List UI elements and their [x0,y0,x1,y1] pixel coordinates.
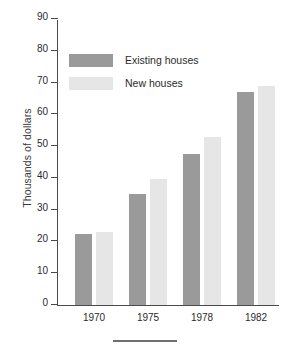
y-axis-tick-label: 90 [37,11,48,22]
y-axis-title: Thousands of dollars [21,78,33,238]
y-axis-tick: 90 [51,18,58,19]
legend-swatch-existing-houses [69,54,113,67]
x-axis-label: 1970 [64,312,124,323]
y-axis-tick: 60 [51,113,58,114]
bar-existing-houses[interactable] [75,234,92,306]
y-axis-tick-label: 70 [37,75,48,86]
y-axis-tick-label: 60 [37,106,48,117]
footer-rule [113,340,177,342]
y-axis-tick: 10 [51,272,58,273]
bar-chart-figure: Thousands of dollars 9080706050403020100… [0,0,289,354]
legend-item[interactable]: New houses [69,74,199,92]
y-axis-tick: 40 [51,177,58,178]
y-axis-tick-label: 40 [37,170,48,181]
bar-existing-houses[interactable] [183,154,200,305]
bar-new-houses[interactable] [150,179,167,305]
y-axis-tick-label: 30 [37,202,48,213]
y-axis-tick: 20 [51,240,58,241]
chart-legend: Existing housesNew houses [69,51,199,97]
legend-item[interactable]: Existing houses [69,51,199,69]
legend-label: Existing houses [125,54,199,66]
y-axis-tick-label: 10 [37,265,48,276]
y-axis-tick: 50 [51,145,58,146]
y-axis-tick: 30 [51,209,58,210]
y-axis-tick: 0 [51,304,58,305]
bar-new-houses[interactable] [96,232,113,305]
y-axis-tick-label: 0 [42,297,48,308]
x-axis-label: 1982 [226,312,286,323]
bar-existing-houses[interactable] [237,92,254,305]
legend-label: New houses [125,77,183,89]
bar-existing-houses[interactable] [129,194,146,305]
bar-new-houses[interactable] [258,86,275,305]
x-axis-label: 1978 [172,312,232,323]
legend-swatch-new-houses [69,77,113,90]
y-axis-tick-label: 50 [37,138,48,149]
bar-new-houses[interactable] [204,137,221,305]
y-axis-tick-label: 20 [37,233,48,244]
y-axis-tick-label: 80 [37,43,48,54]
y-axis-tick: 80 [51,50,58,51]
x-axis-label: 1975 [118,312,178,323]
bar-group [237,20,275,305]
y-axis-tick: 70 [51,82,58,83]
